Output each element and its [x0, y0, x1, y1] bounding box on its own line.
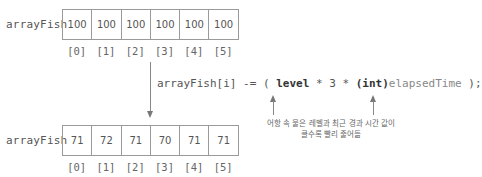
array-cell: 100	[122, 10, 151, 39]
array-index: [2]	[121, 161, 150, 173]
array-cell: 70	[151, 126, 180, 155]
array-index: [3]	[150, 45, 179, 57]
array-cell: 71	[180, 126, 209, 155]
code-suffix: );	[462, 77, 482, 90]
top-index-row: [0] [1] [2] [3] [4] [5]	[62, 45, 238, 57]
array-cell: 71	[122, 126, 151, 155]
transition-arrow-line	[150, 62, 151, 112]
annotation-note: 어항 속 물은 레벨과 최근 경과 시간 값이 클수록 빨리 줄어듦	[256, 118, 406, 140]
array-cell: 72	[92, 126, 121, 155]
array-index: [0]	[62, 45, 91, 57]
level-pointer-line	[273, 101, 274, 115]
bottom-array: 71 72 71 70 71 71	[62, 125, 239, 156]
annotation-line-1: 어항 속 물은 레벨과 최근 경과 시간 값이	[256, 118, 406, 129]
array-cell: 71	[63, 126, 92, 155]
top-array-label: arrayFish	[6, 18, 67, 31]
code-level: level	[276, 77, 309, 90]
array-index: [1]	[91, 161, 120, 173]
code-var: elapsedTime	[389, 77, 462, 90]
array-cell: 100	[92, 10, 121, 39]
array-index: [5]	[208, 161, 237, 173]
array-index: [2]	[121, 45, 150, 57]
array-index: [4]	[179, 161, 208, 173]
code-cast: (int)	[356, 77, 389, 90]
bottom-index-row: [0] [1] [2] [3] [4] [5]	[62, 161, 238, 173]
array-index: [0]	[62, 161, 91, 173]
array-cell: 100	[151, 10, 180, 39]
array-index: [5]	[208, 45, 237, 57]
arrow-down-icon	[147, 111, 153, 118]
annotation-line-2: 클수록 빨리 줄어듦	[256, 129, 406, 140]
code-prefix: arrayFish[i] -= (	[157, 77, 276, 90]
array-index: [1]	[91, 45, 120, 57]
top-array: 100 100 100 100 100 100	[62, 9, 239, 40]
array-cell: 100	[180, 10, 209, 39]
code-expression: arrayFish[i] -= ( level * 3 * (int)elaps…	[157, 77, 482, 90]
code-mid: * 3 *	[309, 77, 355, 90]
array-cell: 100	[209, 10, 237, 39]
elapsed-pointer-line	[373, 101, 374, 115]
array-index: [3]	[150, 161, 179, 173]
array-cell: 100	[63, 10, 92, 39]
bottom-array-label: arrayFish	[6, 134, 67, 147]
array-cell: 71	[209, 126, 237, 155]
array-index: [4]	[179, 45, 208, 57]
